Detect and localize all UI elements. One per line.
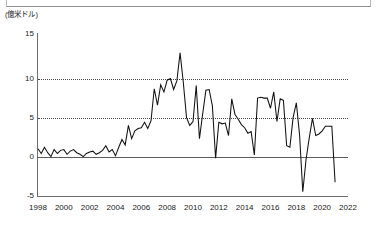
data-series-group <box>0 0 377 225</box>
chart-figure: (億米ドル) 15 10 5 0 -5 19982000200220042006… <box>0 0 377 225</box>
series-line-1 <box>38 53 335 192</box>
